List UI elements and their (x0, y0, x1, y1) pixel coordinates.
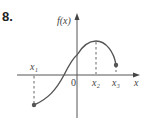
origin-label: 0 (71, 77, 76, 88)
y-axis-arrow-icon (75, 13, 80, 20)
function-curve (34, 41, 116, 105)
y-axis-label: f(x) (57, 15, 72, 27)
x-axis (17, 73, 140, 78)
x-axis-label: x (133, 77, 139, 88)
y-axis (75, 13, 80, 118)
start-point-dot (32, 103, 36, 107)
function-graph: f(x) x₁ 0 x₂ x₃ x (0, 0, 152, 124)
x2-label: x₂ (91, 77, 100, 88)
x1-label: x₁ (29, 61, 38, 72)
x3-label: x₃ (111, 77, 120, 88)
end-point-dot (114, 63, 118, 67)
